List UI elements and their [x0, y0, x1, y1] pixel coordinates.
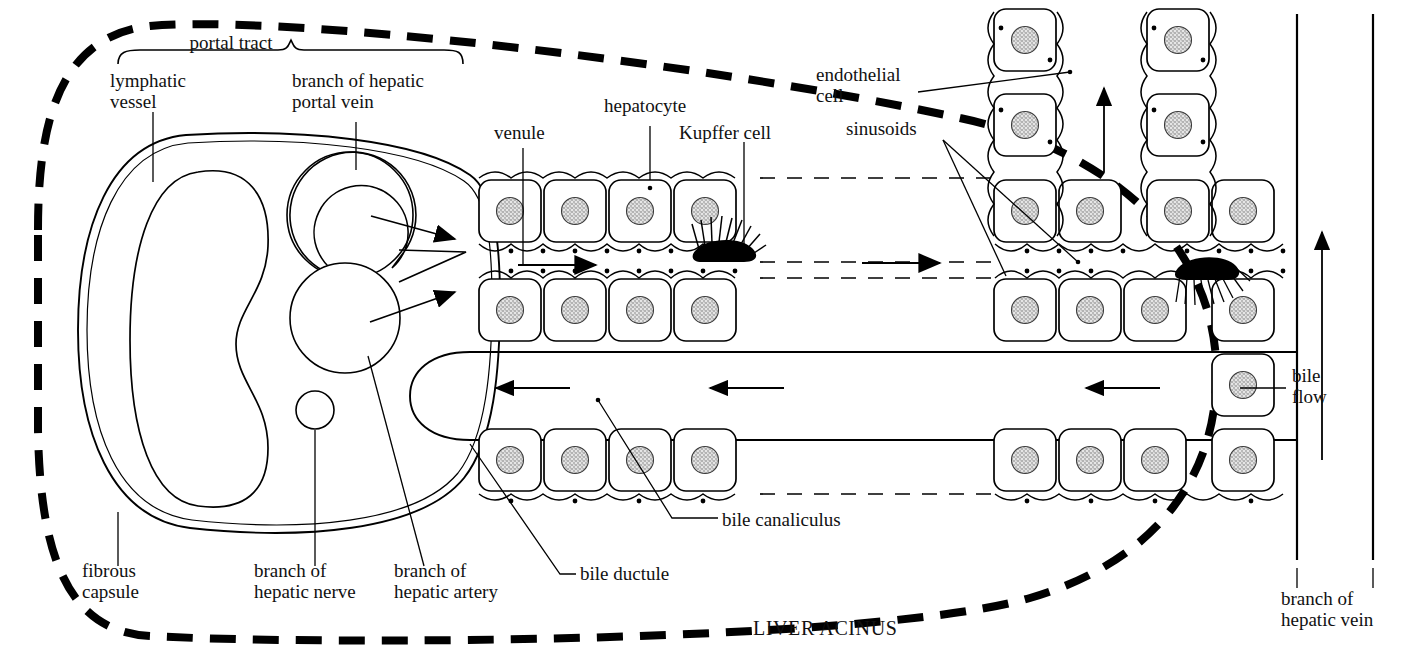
hepatic-vein-lines — [1297, 14, 1373, 560]
label-endothelial-cell: endothelial cell — [816, 64, 900, 106]
portal-tract-brace — [118, 40, 463, 64]
label-sinusoids: sinusoids — [846, 118, 917, 139]
label-bile-ductule: bile ductule — [580, 563, 669, 584]
label-venule: venule — [494, 122, 545, 143]
label-branch-hepatic-nerve: branch of hepatic nerve — [254, 560, 356, 602]
hepatocyte-column-left — [994, 9, 1056, 156]
label-hepatocyte: hepatocyte — [604, 95, 686, 116]
hepatocyte-row-top-right — [994, 180, 1274, 242]
label-liver-acinus: LIVER ACINUS — [753, 618, 897, 639]
label-lymphatic-vessel: lymphatic vessel — [110, 70, 186, 112]
sinusoid-lanes — [760, 178, 1000, 494]
label-branch-hepatic-portal-vein: branch of hepatic portal vein — [292, 70, 424, 112]
hepatic-nerve-branch — [296, 391, 334, 429]
label-bile-canaliculus: bile canaliculus — [722, 509, 841, 530]
diagram-canvas — [0, 0, 1409, 658]
label-branch-hepatic-vein: branch of hepatic vein — [1281, 588, 1373, 630]
label-fibrous-capsule: fibrous capsule — [82, 560, 139, 602]
label-bile-flow: bile flow — [1292, 365, 1327, 407]
bile-ductule — [410, 352, 1298, 440]
hepatocyte-row-middle — [479, 279, 1274, 341]
hepatocyte-row-bottom — [479, 429, 1274, 491]
label-branch-hepatic-artery: branch of hepatic artery — [394, 560, 498, 602]
label-kupffer-cell: Kupffer cell — [679, 122, 771, 143]
portal-tract-group — [78, 133, 500, 533]
label-portal-tract: portal tract — [190, 32, 273, 53]
liver-acinus-diagram: portal tract lymphatic vessel branch of … — [0, 0, 1409, 658]
hepatocyte-row-top — [479, 180, 736, 242]
blood-flow-arrows — [518, 263, 940, 265]
hepatocyte-column-right — [1147, 9, 1209, 156]
hepatocyte-column-far-right — [1212, 354, 1274, 416]
